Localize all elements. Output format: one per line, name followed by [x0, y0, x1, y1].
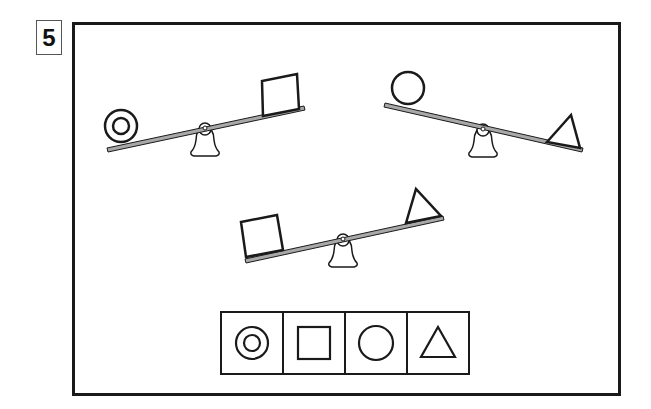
- seesaw-3: [241, 189, 444, 267]
- triangle-icon: [406, 189, 441, 223]
- answer-choice-square[interactable]: [284, 313, 346, 373]
- square-icon: [241, 215, 283, 257]
- answer-choice-circle[interactable]: [346, 313, 408, 373]
- answer-choices: [220, 311, 470, 375]
- circle-icon: [356, 323, 396, 363]
- answer-choice-double-circle[interactable]: [222, 313, 284, 373]
- double-circle-icon: [105, 110, 137, 142]
- pivot-pin: [481, 127, 485, 131]
- seesaw-1: [105, 74, 305, 156]
- answer-choice-triangle[interactable]: [408, 313, 468, 373]
- double-circle-icon: [232, 323, 272, 363]
- triangle-icon: [417, 323, 459, 363]
- square-icon: [262, 74, 299, 116]
- square-icon: [294, 323, 334, 363]
- circle-icon: [392, 72, 424, 104]
- triangle-icon: [547, 115, 580, 148]
- pivot-pin: [203, 126, 207, 130]
- seesaw-2: [384, 72, 583, 157]
- pivot-pin: [341, 237, 345, 241]
